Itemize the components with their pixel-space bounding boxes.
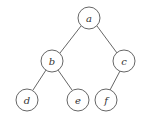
- node-e: e: [67, 89, 89, 111]
- edge-b-d: [33, 70, 46, 90]
- node-b-label: b: [49, 56, 55, 67]
- edge-a-c: [97, 26, 117, 53]
- node-c: c: [113, 50, 135, 72]
- node-d: d: [16, 89, 38, 111]
- node-d-label: d: [24, 95, 30, 106]
- tree-diagram: a b c d e f: [0, 0, 151, 127]
- node-f: f: [95, 89, 117, 111]
- node-a: a: [78, 7, 100, 29]
- node-a-label: a: [86, 13, 92, 24]
- edge-c-f: [110, 71, 120, 90]
- node-e-label: e: [75, 95, 81, 106]
- node-c-label: c: [121, 56, 127, 67]
- edge-b-e: [58, 70, 72, 90]
- node-b: b: [41, 50, 63, 72]
- edge-a-b: [60, 26, 81, 53]
